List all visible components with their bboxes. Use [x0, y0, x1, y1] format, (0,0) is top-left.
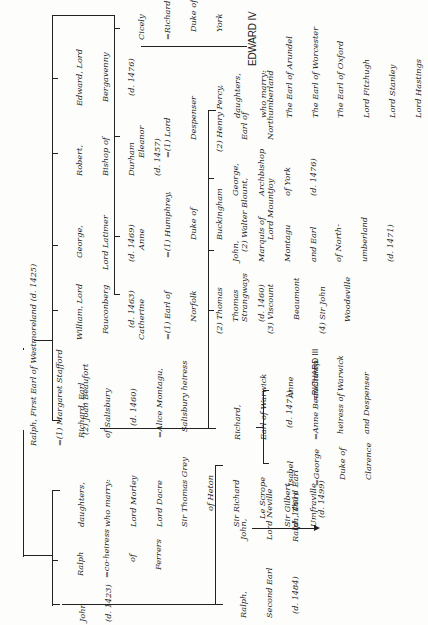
- node-line: of North-: [334, 217, 343, 262]
- node-line: Richard,: [233, 355, 242, 440]
- node-line: Ferrers: [154, 529, 163, 578]
- node-line: (d. 1460): [257, 284, 266, 322]
- node-line: The Earl of Oxford: [336, 27, 345, 118]
- node-line: John,: [239, 489, 248, 540]
- connector-line: [52, 560, 58, 561]
- node-john-1423: John (d. 1423): [61, 584, 130, 622]
- node-richard-salisbury: Richard, Earl of Salisbury (d. 1460) =Al…: [60, 361, 206, 439]
- node-line: Lord Hastings: [414, 27, 423, 118]
- node-line: Anne: [137, 178, 146, 258]
- connector-line: [52, 604, 60, 605]
- node-line: who marry:: [259, 27, 268, 118]
- node-line: Montagu: [283, 217, 292, 262]
- connector-line: [52, 15, 114, 16]
- node-line: Lord Dacre: [155, 457, 164, 527]
- node-line: Thomas: [231, 284, 240, 322]
- node-line: =Richard,: [163, 0, 172, 40]
- node-line: Catherine: [137, 273, 146, 340]
- node-line: Archbishop: [257, 149, 266, 196]
- node-line: =Alice Montagu,: [155, 361, 164, 439]
- node-line: daughters,: [233, 27, 242, 118]
- node-line: =(1) Humphrey,: [163, 178, 172, 258]
- connector-line: [52, 490, 53, 606]
- node-line: and Earl: [309, 217, 318, 262]
- node-line: Eleanor: [137, 70, 146, 158]
- node-line: Robert,: [75, 137, 84, 176]
- node-line: =George: [312, 443, 321, 486]
- node-line: Cicely: [137, 0, 146, 40]
- node-line: (d. 1484): [291, 568, 300, 618]
- node-line: Lord Latimer: [101, 215, 110, 270]
- node-line: Lord Morley: [129, 457, 138, 527]
- node-line: Second Earl: [265, 568, 274, 618]
- node-line: (d. 1476): [309, 149, 318, 196]
- node-line: Woodeville: [343, 273, 352, 340]
- node-line: =(1) Lord: [163, 70, 172, 158]
- node-line: and Despenser: [362, 355, 371, 440]
- node-line: (d. 1471): [386, 217, 395, 262]
- node-line: John: [78, 584, 87, 622]
- node-line: of: [128, 529, 137, 578]
- node-line: (4) Sir John: [318, 273, 327, 340]
- node-isabel: Isabel =George Duke of Clarence: [269, 443, 389, 486]
- node-line: Duke of: [189, 178, 198, 258]
- node-line: Duke of: [338, 443, 347, 486]
- node-anne-richard-iii: Anne =RICHARD III: [269, 349, 338, 400]
- node-line: George,: [75, 215, 84, 270]
- node-line: Edward, Lord: [75, 49, 84, 106]
- node-line: Beaumont: [292, 273, 301, 340]
- node-line: Despenser: [189, 70, 198, 158]
- node-line: Ralph,: [239, 568, 248, 618]
- node-line: The Earl of Worcester: [311, 27, 320, 118]
- connector-line: [52, 490, 60, 491]
- node-line: of Salisbury: [103, 361, 112, 439]
- node-ralph-second-earl: Ralph, Second Earl (d. 1484): [222, 568, 317, 618]
- node-line: daughters,: [77, 457, 86, 527]
- node-line: =(1) Earl of: [163, 273, 172, 340]
- node-line: Norfolk: [189, 273, 198, 340]
- node-line: Salisbury heiress: [180, 361, 189, 439]
- node-line: Clarence: [364, 443, 373, 486]
- node-line: Ralph, First Earl of Westmoreland (d. 14…: [29, 264, 38, 446]
- node-line: Richard, Earl: [77, 361, 86, 439]
- node-line: Duke of: [189, 0, 198, 40]
- node-line: =RICHARD III: [312, 349, 321, 400]
- connector-line: [23, 555, 53, 556]
- node-john-montagu: John, Marquis of Montagu and Earl of Nor…: [214, 217, 412, 262]
- node-daughters-salisbury: daughters, who marry: The Earl of Arunde…: [216, 27, 428, 118]
- node-line: Bishop of: [101, 137, 110, 176]
- node-line: Fauconberg: [101, 284, 110, 340]
- node-line: Lord Neville: [265, 489, 274, 540]
- node-line: Lord Fitzhugh: [362, 27, 371, 118]
- node-line: John,: [231, 217, 240, 262]
- connector-line: [23, 430, 24, 557]
- node-line: Lord Stanley: [388, 27, 397, 118]
- node-line: Earl of Warwick: [259, 355, 268, 440]
- node-line: =co-heiress: [102, 529, 111, 578]
- node-line: (d. 1423): [104, 584, 113, 622]
- node-ralph-ferrers: Ralph =co-heiress of Ferrers: [59, 529, 179, 578]
- node-thomas: Thomas (d. 1460): [214, 284, 283, 322]
- node-line: Anne: [286, 349, 295, 400]
- node-line: (d. 1460): [129, 361, 138, 439]
- node-line: The Earl of Arundel: [285, 27, 294, 118]
- node-line: of Heton: [206, 457, 215, 527]
- node-line: Ralph: [76, 529, 85, 578]
- node-george-york: George, Archbishop of York (d. 1476): [214, 149, 334, 196]
- node-line: of York: [283, 149, 292, 196]
- node-line: Marquis of: [257, 217, 266, 262]
- connector-line: [208, 428, 216, 429]
- node-line: umberland: [360, 217, 369, 262]
- node-line: who marry:: [103, 457, 112, 527]
- node-line: Bergavenny: [101, 49, 110, 106]
- node-line: William, Lord: [75, 284, 84, 340]
- node-line: Isabel: [286, 443, 295, 486]
- node-line: George,: [231, 149, 240, 196]
- node-line: Sir Thomas Grey: [180, 457, 189, 527]
